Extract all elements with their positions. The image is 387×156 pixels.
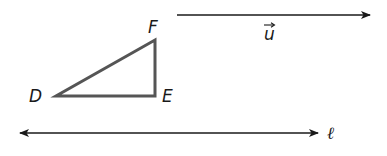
vector-u: u bbox=[177, 15, 370, 44]
vertex-label-f: F bbox=[148, 17, 158, 37]
vertex-label-d: D bbox=[29, 86, 42, 106]
triangle-def: D E F bbox=[29, 17, 173, 106]
triangle-shape bbox=[56, 40, 155, 96]
vertex-label-e: E bbox=[162, 86, 173, 106]
line-l: ℓ bbox=[20, 123, 334, 143]
vector-u-label: u bbox=[264, 24, 275, 44]
diagram-canvas: D E F u ℓ bbox=[0, 0, 387, 156]
line-l-label: ℓ bbox=[327, 123, 334, 143]
